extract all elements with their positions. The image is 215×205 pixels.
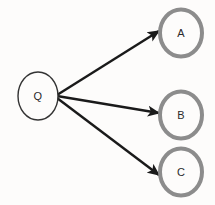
graph-diagram: Q A B C xyxy=(0,0,215,205)
node-b-label: B xyxy=(177,109,185,121)
node-c[interactable]: C xyxy=(160,149,202,196)
node-a[interactable]: A xyxy=(160,10,202,57)
node-q-label: Q xyxy=(34,90,43,102)
edge-q-a[interactable] xyxy=(57,31,159,95)
node-q[interactable]: Q xyxy=(18,72,58,120)
node-a-label: A xyxy=(177,27,185,39)
node-c-label: C xyxy=(177,166,185,178)
diagram-canvas: Q A B C xyxy=(0,0,215,205)
node-b[interactable]: B xyxy=(160,92,202,139)
edge-group xyxy=(57,31,159,175)
